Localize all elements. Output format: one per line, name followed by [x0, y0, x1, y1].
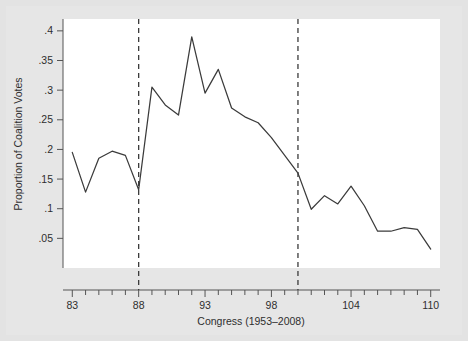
x-tick-label-110: 110 [422, 299, 439, 311]
x-tick-label-88: 88 [133, 299, 145, 311]
figure-container: .05.1.15.2.25.3.35.4 83889398104110 Cong… [0, 0, 468, 341]
y-tick-label-.15: .15 [38, 173, 53, 185]
y-tick-label-.3: .3 [44, 84, 53, 96]
y-tick-label-.05: .05 [38, 232, 53, 244]
y-tick-label-.4: .4 [44, 24, 53, 36]
y-tick-label-.2: .2 [44, 143, 53, 155]
chart-svg: .05.1.15.2.25.3.35.4 83889398104110 Cong… [0, 0, 468, 341]
x-tick-label-98: 98 [266, 299, 278, 311]
y-axis-tick-labels: .05.1.15.2.25.3.35.4 [38, 24, 53, 244]
x-tick-label-104: 104 [342, 299, 360, 311]
x-tick-label-83: 83 [66, 299, 78, 311]
y-axis-ticks [57, 31, 63, 239]
x-axis-ticks [72, 290, 430, 297]
x-axis-tick-labels: 83889398104110 [66, 299, 439, 311]
x-tick-label-93: 93 [199, 299, 211, 311]
y-tick-label-.1: .1 [44, 202, 53, 214]
y-tick-label-.35: .35 [38, 54, 53, 66]
x-axis-title: Congress (1953–2008) [197, 315, 304, 327]
y-axis-title: Proportion of Coalition Votes [12, 77, 24, 210]
y-tick-label-.25: .25 [38, 113, 53, 125]
